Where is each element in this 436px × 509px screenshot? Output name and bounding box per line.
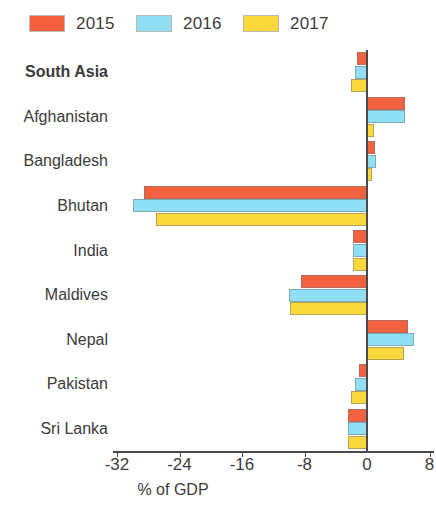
bar — [367, 347, 404, 360]
y-axis-label-bhutan: Bhutan — [0, 198, 108, 214]
bar — [353, 244, 367, 257]
y-axis-label-afghanistan: Afghanistan — [0, 109, 108, 125]
bar-group — [113, 273, 433, 318]
legend-item-2016: 2016 — [136, 8, 222, 38]
y-axis-label-pakistan: Pakistan — [0, 376, 108, 392]
legend-label-2016: 2016 — [183, 15, 222, 32]
y-axis-label-sri-lanka: Sri Lanka — [0, 421, 108, 437]
x-tick-label: -8 — [297, 456, 312, 473]
bar-group — [113, 184, 433, 229]
x-axis-title: % of GDP — [0, 482, 436, 498]
x-tick-label: 0 — [362, 456, 371, 473]
legend-label-2017: 2017 — [290, 15, 329, 32]
bar — [367, 97, 405, 110]
legend-label-2015: 2015 — [76, 15, 115, 32]
x-tick-mark — [242, 452, 243, 457]
x-tick-label: -16 — [230, 456, 255, 473]
y-axis-label-india: India — [0, 243, 108, 259]
x-axis-tick-labels: -32-24-16-808 — [0, 456, 436, 480]
y-axis-label-nepal: Nepal — [0, 332, 108, 348]
legend-swatch-2017 — [243, 15, 279, 32]
bar — [367, 333, 414, 346]
legend-item-2017: 2017 — [243, 8, 329, 38]
bar-group — [113, 50, 433, 95]
x-tick-mark — [117, 452, 118, 457]
bar — [367, 110, 405, 123]
bar — [367, 320, 408, 333]
bar — [289, 289, 367, 302]
x-tick-mark — [180, 452, 181, 457]
x-axis-line — [113, 451, 434, 453]
y-axis-label-maldives: Maldives — [0, 287, 108, 303]
x-tick-mark — [430, 452, 431, 457]
y-axis-label-south-asia: South Asia — [0, 64, 108, 80]
x-tick-label: 8 — [425, 456, 434, 473]
bar — [353, 258, 367, 271]
bar-group — [113, 406, 433, 451]
bar — [301, 275, 367, 288]
zero-axis-line — [366, 50, 368, 452]
bar-group — [113, 95, 433, 140]
bar — [348, 436, 367, 449]
bar-group — [113, 228, 433, 273]
legend-swatch-2016 — [136, 15, 172, 32]
y-axis-category-labels: South AsiaAfghanistanBangladeshBhutanInd… — [0, 50, 108, 452]
bar — [348, 409, 367, 422]
bar — [290, 302, 367, 315]
bar — [133, 199, 367, 212]
x-axis-title-text: % of GDP — [137, 481, 208, 498]
bar — [351, 391, 367, 404]
x-tick-mark — [305, 452, 306, 457]
chart-figure: 2015 2016 2017 South AsiaAfghanistanBang… — [0, 0, 436, 509]
legend-item-2015: 2015 — [29, 8, 115, 38]
x-tick-label: -24 — [167, 456, 192, 473]
y-axis-label-bangladesh: Bangladesh — [0, 153, 108, 169]
bar — [156, 213, 367, 226]
bar — [351, 79, 367, 92]
x-tick-label: -32 — [105, 456, 130, 473]
bar — [353, 230, 367, 243]
bar — [367, 124, 374, 137]
bar — [144, 186, 367, 199]
bar — [367, 155, 376, 168]
bar — [367, 141, 375, 154]
bar — [348, 422, 367, 435]
bar-group — [113, 139, 433, 184]
chart-legend: 2015 2016 2017 — [0, 8, 436, 42]
bar-group — [113, 362, 433, 407]
plot-area — [113, 50, 433, 452]
legend-swatch-2015 — [29, 15, 65, 32]
bar-group — [113, 317, 433, 362]
